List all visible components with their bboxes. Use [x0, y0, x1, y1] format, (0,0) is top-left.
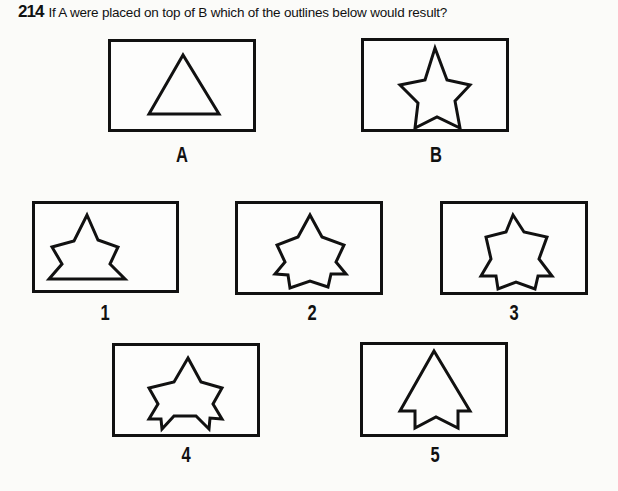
label-option-1[interactable]: 1: [94, 300, 117, 326]
question-number: 214: [18, 2, 43, 21]
option-3-shape-icon: [443, 204, 585, 292]
question-text: If A were placed on top of B which of th…: [48, 5, 447, 20]
label-a: A: [171, 142, 194, 168]
option-5-shape-icon: [363, 345, 505, 434]
option-panel-3[interactable]: [440, 201, 588, 295]
label-b: B: [425, 142, 448, 168]
label-option-5[interactable]: 5: [424, 442, 447, 468]
label-option-4[interactable]: 4: [175, 442, 198, 468]
option-4-shape-icon: [115, 346, 257, 434]
panel-a: [108, 39, 256, 132]
question-header: 214If A were placed on top of B which of…: [18, 2, 447, 22]
label-option-2[interactable]: 2: [301, 300, 324, 326]
option-panel-2[interactable]: [235, 201, 383, 295]
option-panel-5[interactable]: [360, 342, 508, 437]
option-2-shape-icon: [238, 204, 380, 292]
option-1-shape-icon: [35, 204, 176, 290]
panel-b: [361, 38, 509, 132]
triangle-icon: [111, 42, 253, 129]
option-panel-4[interactable]: [112, 343, 260, 437]
star-icon: [364, 41, 506, 129]
option-panel-1[interactable]: [32, 201, 179, 293]
label-option-3[interactable]: 3: [503, 300, 526, 326]
